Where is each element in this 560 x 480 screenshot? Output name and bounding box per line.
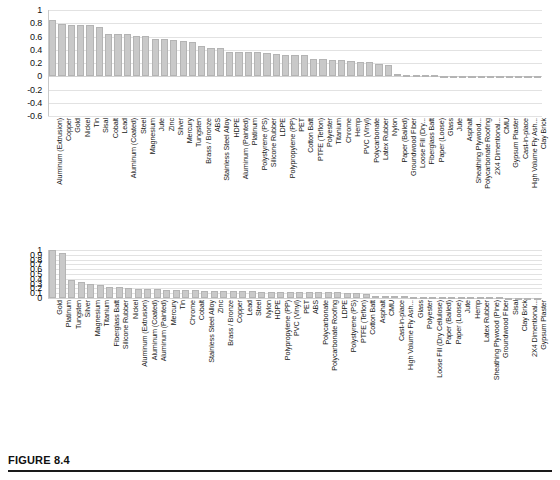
x-axis-category-label: Latex Rubber <box>483 300 490 342</box>
bar <box>366 62 373 76</box>
figure-caption: FIGURE 8.4 <box>8 454 552 472</box>
x-axis-category-label: Glass <box>417 300 424 318</box>
caption-divider <box>8 470 552 472</box>
bar <box>254 52 261 76</box>
x-axis-category-label: Tin <box>93 118 100 127</box>
y-axis-tick-label: -0.6 <box>0 112 42 121</box>
x-axis-category-label: Mercury <box>170 300 177 325</box>
x-axis-category-label: Polypropylene (PP) <box>289 118 296 178</box>
x-axis-category-label: PTFE (Teflon) <box>360 300 367 343</box>
figure-caption-label: FIGURE 8.4 <box>8 454 552 466</box>
bar <box>226 52 233 77</box>
bar <box>258 292 265 298</box>
bar <box>375 64 382 76</box>
x-axis-category-label: Loose Fill (Dry... <box>419 118 426 168</box>
bar <box>315 292 322 298</box>
x-axis-category-label: Magnesium <box>94 300 101 336</box>
y-axis-tick-label: 0.2 <box>0 59 42 68</box>
y-axis-tick-label: 0 <box>0 72 42 81</box>
bar <box>239 291 246 298</box>
top-chart-x-labels: Aluminum (Extrusion)CopperGoldNickelTinS… <box>48 118 542 233</box>
bar <box>180 41 187 76</box>
bar <box>170 40 177 76</box>
bar <box>58 24 65 76</box>
x-axis-category-label: Jute <box>456 118 463 131</box>
bar <box>334 292 341 298</box>
x-axis-category-label: Latex Rubber <box>382 118 389 160</box>
bar <box>161 39 168 76</box>
bar <box>515 76 522 78</box>
bar <box>173 290 180 298</box>
bar <box>429 297 436 299</box>
bar <box>413 75 420 77</box>
bar <box>189 42 196 76</box>
bottom-chart-y-axis: 10.90.80.70.60.50.40.30.20.10 <box>0 244 42 298</box>
gridline <box>48 10 542 11</box>
x-axis-category-label: Chrome <box>189 300 196 325</box>
bar <box>459 76 466 78</box>
bar <box>478 76 485 78</box>
x-axis-category-label: Chrome <box>345 118 352 143</box>
gridline <box>48 260 542 261</box>
x-axis-category-label: Silver <box>177 118 184 135</box>
y-axis-tick-label: -0.2 <box>0 85 42 94</box>
x-axis-category-label: Mercury <box>186 118 193 143</box>
bar <box>268 292 275 298</box>
bar <box>68 25 75 77</box>
x-axis-category-label: High Volume Fly Ash... <box>531 118 538 188</box>
gridline <box>48 269 542 270</box>
y-axis-tick-label: 1 <box>0 6 42 15</box>
x-axis-category-label: Gypsum Plaster <box>512 118 519 168</box>
x-axis-category-label: Loose Fill (Dry Cellulose) <box>436 300 443 378</box>
x-axis-category-label: Paper (Loose) <box>438 118 445 162</box>
x-axis-category-label: Aluminum (Coated) <box>151 300 158 360</box>
y-axis-tick-label: 0.4 <box>0 45 42 54</box>
x-axis-category-label: Titanium <box>103 300 110 327</box>
x-axis-category-label: Tungsten <box>195 118 202 147</box>
bottom-chart-inner: 10.90.80.70.60.50.40.30.20.10 GoldPlatin… <box>0 244 560 434</box>
bar <box>440 76 447 78</box>
bar <box>372 296 379 298</box>
top-chart-y-axis: 10.80.60.40.20-0.2-0.4-0.6 <box>0 0 42 186</box>
top-chart-plot-area <box>48 10 542 116</box>
bar <box>124 34 131 76</box>
bar <box>49 20 56 76</box>
x-axis-category-label: ABS <box>312 300 319 314</box>
bar <box>496 76 503 78</box>
bar <box>87 284 94 298</box>
x-axis-category-label: PTFE (Teflon) <box>317 118 324 161</box>
bar <box>277 292 284 298</box>
y-axis-tick-label: 0 <box>0 294 42 303</box>
x-axis-category-label: Asphalt <box>379 300 386 323</box>
x-axis-category-label: Silver <box>84 300 91 317</box>
x-axis-category-label: ABS <box>214 118 221 132</box>
x-axis-category-label: CMU <box>388 300 395 316</box>
x-axis-category-label: Paper (Loose) <box>455 300 462 344</box>
x-axis-category-label: Polyester <box>326 118 333 147</box>
bar <box>235 52 242 77</box>
bar <box>78 282 85 298</box>
y-axis-tick-label: 0.6 <box>0 32 42 41</box>
gridline <box>48 103 542 104</box>
bar <box>263 53 270 76</box>
x-axis-category-label: Clay Brick <box>521 300 528 331</box>
bar <box>439 297 446 299</box>
x-axis-category-label: Zinc <box>168 118 175 131</box>
x-axis-category-label: Polycarbonate Roofing <box>484 118 491 189</box>
x-axis-category-label: LDPE <box>279 118 286 136</box>
x-axis-category-label: Gold <box>56 300 63 315</box>
bar <box>192 290 199 298</box>
x-axis-category-label: Lead <box>121 118 128 134</box>
x-axis-category-label: Titanium <box>335 118 342 145</box>
gridline <box>48 37 542 38</box>
x-axis-category-label: Clay Brick <box>540 118 547 149</box>
figure-page: 10.80.60.40.20-0.2-0.4-0.6 Aluminum (Ext… <box>0 0 560 480</box>
x-axis-category-label: Silicone Rubber <box>122 300 129 349</box>
bar <box>301 55 308 76</box>
x-axis-category-label: Groundwood Fiber <box>502 300 509 358</box>
x-axis-category-label: Copper <box>236 300 243 323</box>
bar <box>506 76 513 78</box>
x-axis-category-label: Glass <box>447 118 454 136</box>
bar <box>291 55 298 76</box>
top-chart-inner: 10.80.60.40.20-0.2-0.4-0.6 Aluminum (Ext… <box>0 0 560 240</box>
